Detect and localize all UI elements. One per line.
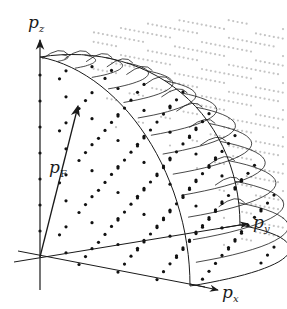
inside-lattice-point xyxy=(58,233,61,236)
outside-lattice-point xyxy=(268,197,270,199)
outside-lattice-point xyxy=(246,212,248,214)
outside-lattice-point xyxy=(232,20,234,22)
outside-lattice-point xyxy=(147,59,149,61)
outside-lattice-point xyxy=(169,117,171,119)
outside-lattice-point xyxy=(129,38,131,40)
outside-lattice-point xyxy=(160,116,162,118)
inside-lattice-point xyxy=(227,194,230,197)
outside-lattice-point xyxy=(210,43,212,45)
outside-lattice-point xyxy=(178,46,180,48)
outside-lattice-point xyxy=(273,126,275,128)
inside-lattice-point xyxy=(181,248,184,251)
outside-lattice-point xyxy=(228,100,230,102)
inside-lattice-point xyxy=(175,256,178,259)
outside-lattice-point xyxy=(133,30,135,32)
inside-lattice-point xyxy=(58,129,61,132)
inside-lattice-point xyxy=(220,254,223,257)
inside-lattice-point xyxy=(220,202,223,205)
latitude-ribbon xyxy=(151,93,217,135)
outside-lattice-point xyxy=(237,183,239,185)
inside-lattice-point xyxy=(90,91,93,94)
outside-lattice-point xyxy=(210,79,212,81)
outside-lattice-point xyxy=(205,96,207,98)
xy-boundary-arc xyxy=(190,225,287,286)
outside-lattice-point xyxy=(277,199,279,201)
latitude-ribbon xyxy=(58,55,68,62)
inside-lattice-point xyxy=(162,113,165,116)
outside-lattice-point xyxy=(219,44,221,46)
outside-lattice-point xyxy=(138,94,140,96)
outside-lattice-point xyxy=(255,113,257,115)
outside-lattice-point xyxy=(174,72,176,74)
outside-lattice-point xyxy=(124,55,126,57)
inside-lattice-point xyxy=(201,120,204,123)
shell-ribbon-edge xyxy=(145,77,171,85)
outside-lattice-point xyxy=(250,78,252,80)
inside-lattice-point xyxy=(116,139,119,142)
outside-lattice-point xyxy=(115,63,117,65)
inside-lattice-point xyxy=(129,99,132,102)
inside-lattice-point xyxy=(194,204,197,207)
inside-lattice-point xyxy=(103,181,106,184)
outside-lattice-point xyxy=(196,140,198,142)
outside-lattice-point xyxy=(273,207,275,209)
inside-lattice-point xyxy=(84,151,87,154)
outside-lattice-point xyxy=(223,45,225,47)
outside-lattice-point xyxy=(268,170,270,172)
outside-lattice-point xyxy=(214,44,216,46)
outside-lattice-point xyxy=(246,67,248,69)
inside-lattice-point xyxy=(227,142,230,145)
inside-lattice-point xyxy=(181,142,184,145)
outside-lattice-point xyxy=(282,109,284,111)
outside-lattice-point xyxy=(97,32,99,34)
outside-lattice-point xyxy=(268,143,270,145)
inside-lattice-point xyxy=(201,172,204,175)
outside-lattice-point xyxy=(124,28,126,30)
outside-lattice-point xyxy=(268,35,270,37)
outside-lattice-point xyxy=(277,118,279,120)
inside-lattice-point xyxy=(207,218,210,221)
outside-lattice-point xyxy=(264,152,266,154)
outside-lattice-point xyxy=(264,179,266,181)
outside-lattice-point xyxy=(169,36,171,38)
outside-lattice-point xyxy=(264,206,266,208)
outside-lattice-point xyxy=(259,33,261,35)
outside-lattice-point xyxy=(273,63,275,65)
outside-lattice-point xyxy=(273,171,275,173)
outside-lattice-point xyxy=(273,117,275,119)
outside-lattice-point xyxy=(250,41,252,43)
inside-lattice-point xyxy=(97,189,100,192)
outside-lattice-point xyxy=(160,62,162,64)
outside-lattice-point xyxy=(201,51,203,53)
outside-lattice-point xyxy=(138,30,140,32)
outside-lattice-point xyxy=(277,64,279,66)
outside-lattice-point xyxy=(273,225,275,227)
inside-lattice-point xyxy=(116,87,119,90)
outside-lattice-point xyxy=(93,41,95,43)
inside-lattice-point xyxy=(116,271,119,274)
outside-lattice-point xyxy=(187,75,189,77)
outside-lattice-point xyxy=(151,24,153,26)
outside-lattice-point xyxy=(268,62,270,64)
outside-lattice-point xyxy=(196,86,198,88)
outside-lattice-point xyxy=(250,68,252,70)
outside-lattice-point xyxy=(196,113,198,115)
inside-lattice-point xyxy=(103,77,106,80)
inside-lattice-point xyxy=(149,232,152,235)
outside-lattice-point xyxy=(120,54,122,56)
inside-lattice-point xyxy=(253,164,256,167)
outside-lattice-point xyxy=(241,184,243,186)
inside-lattice-point xyxy=(123,159,126,162)
inside-lattice-point xyxy=(90,117,93,120)
outside-lattice-point xyxy=(192,58,194,60)
inside-lattice-point xyxy=(142,213,145,216)
inside-lattice-point xyxy=(129,203,132,206)
outside-lattice-point xyxy=(192,76,194,78)
outside-lattice-point xyxy=(196,77,198,79)
outside-lattice-point xyxy=(102,43,104,45)
outside-lattice-point xyxy=(156,51,158,53)
outside-lattice-point xyxy=(282,146,284,148)
inside-lattice-point xyxy=(194,128,197,131)
inside-lattice-point xyxy=(149,128,152,131)
outside-lattice-point xyxy=(273,198,275,200)
